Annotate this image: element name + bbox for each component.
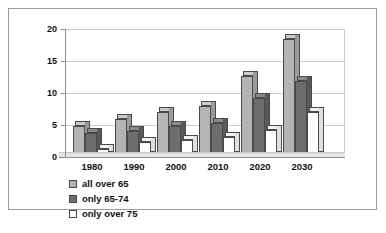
legend-label-only-over-75: only over 75 [82, 208, 137, 219]
legend-item-only-65-74: only 65-74 [69, 191, 137, 206]
figure-caption [16, 222, 376, 232]
chart-border-box: 20 15 10 5 0 1980 1990 2000 2010 2020 20… [8, 8, 377, 210]
legend-label-only-65-74: only 65-74 [82, 193, 128, 204]
chart-legend: all over 65 only 65-74 only over 75 [69, 176, 137, 221]
bar-2030-only-over-75 [307, 112, 319, 157]
value-axis-line [65, 29, 66, 158]
bar-2010-all-over-65 [199, 106, 211, 157]
bar-front-face [199, 106, 211, 157]
plot-area [65, 29, 345, 157]
ytick-mark-15 [61, 61, 65, 62]
bar-front-face [295, 81, 307, 157]
bar-group-1980 [71, 29, 113, 157]
ytick-label-15: 15 [27, 57, 57, 66]
bar-group-2010 [197, 29, 239, 157]
bar-front-face [157, 112, 169, 157]
bar-group-2020 [239, 29, 281, 157]
ytick-mark-5 [61, 125, 65, 126]
ytick-label-10: 10 [27, 89, 57, 98]
bar-front-face [283, 39, 295, 157]
ytick-label-0: 0 [27, 153, 57, 162]
category-axis-line [59, 157, 345, 158]
legend-label-all-over-65: all over 65 [82, 178, 128, 189]
ytick-mark-10 [61, 93, 65, 94]
bar-2020-all-over-65 [241, 76, 253, 157]
bar-2030-all-over-65 [283, 39, 295, 157]
bar-front-face [253, 98, 265, 157]
ytick-mark-20 [61, 29, 65, 30]
bar-2000-all-over-65 [157, 112, 169, 157]
bar-2020-only-65-74 [253, 98, 265, 157]
bar-2030-only-65-74 [295, 81, 307, 157]
bar-group-1990 [113, 29, 155, 157]
xtick-label-2030: 2030 [274, 161, 330, 172]
white-swatch-icon [69, 210, 77, 218]
bar-group-2030 [281, 29, 323, 157]
legend-item-all-over-65: all over 65 [69, 176, 137, 191]
ytick-mark-0 [61, 157, 65, 158]
legend-item-only-over-75: only over 75 [69, 206, 137, 221]
bar-side-face [319, 107, 324, 152]
ytick-label-5: 5 [27, 121, 57, 130]
bar-front-face [307, 112, 319, 157]
bar-front-face [241, 76, 253, 157]
dark-gray-swatch-icon [69, 195, 77, 203]
light-gray-swatch-icon [69, 180, 77, 188]
ytick-label-20: 20 [27, 25, 57, 34]
bar-group-2000 [155, 29, 197, 157]
chart-image: 20 15 10 5 0 1980 1990 2000 2010 2020 20… [0, 0, 386, 233]
